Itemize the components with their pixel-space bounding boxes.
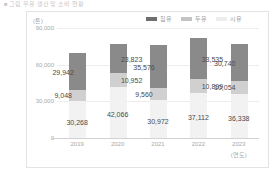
chart-screenshot: ■ 그림 우유 생산 및 소비 현황 (톤) 집유 두유 시유 030,0006…: [0, 0, 277, 179]
bar-value-label: 10,952: [121, 76, 142, 83]
x-axis-tick-labels: 20192020202120222023(연도): [57, 141, 259, 165]
x-axis-unit-label: (연도): [219, 150, 259, 159]
legend-swatch-icon-0: [146, 17, 157, 21]
bar-value-label: 9,560: [135, 91, 153, 98]
y-axis-unit-label: (톤): [33, 16, 43, 25]
bar-value-label: 30,972: [147, 118, 168, 125]
legend-item-1[interactable]: 두유: [181, 14, 207, 23]
x-tick-label: 2022: [178, 141, 218, 147]
legend-swatch-icon-2: [216, 17, 227, 21]
x-tick-label: 2019: [57, 141, 97, 147]
bar-value-label: 29,942: [52, 68, 73, 75]
bar-value-label: 42,066: [107, 111, 128, 118]
x-tick-label: 2023: [219, 141, 259, 147]
x-axis-line: [52, 138, 259, 139]
chart-legend: 집유 두유 시유: [146, 14, 242, 23]
legend-label-2: 시유: [230, 14, 242, 23]
bar-series-container: 29,9429,04830,26823,82310,95242,06635,57…: [57, 28, 259, 138]
bar-value-label: 30,740: [214, 59, 235, 66]
legend-item-2[interactable]: 시유: [216, 14, 242, 23]
legend-label-0: 집유: [160, 14, 172, 23]
bar-value-label: 35,576: [133, 63, 154, 70]
bar-value-label: 23,823: [121, 55, 142, 62]
bar-value-label: 37,112: [188, 114, 209, 121]
bar-value-label: 30,268: [66, 118, 87, 125]
plot-area: 29,9429,04830,26823,82310,95242,06635,57…: [57, 28, 259, 138]
bar-value-label: 10,054: [214, 84, 235, 91]
x-tick-label: 2021: [138, 141, 178, 147]
legend-swatch-icon-1: [181, 17, 192, 21]
y-tick-label: 90,000: [36, 25, 54, 31]
legend-label-1: 두유: [195, 14, 207, 23]
bar-value-label: 36,338: [228, 114, 249, 121]
y-tick-label: 30,000: [36, 98, 54, 104]
y-tick-label: 60,000: [36, 62, 54, 68]
figure-caption: ■ 그림 우유 생산 및 소비 현황: [4, 0, 194, 9]
x-tick-label: 2020: [98, 141, 138, 147]
y-axis-tick-labels: 030,00060,00090,000: [28, 28, 54, 138]
legend-item-0[interactable]: 집유: [146, 14, 172, 23]
bar-value-label: 9,048: [54, 92, 72, 99]
